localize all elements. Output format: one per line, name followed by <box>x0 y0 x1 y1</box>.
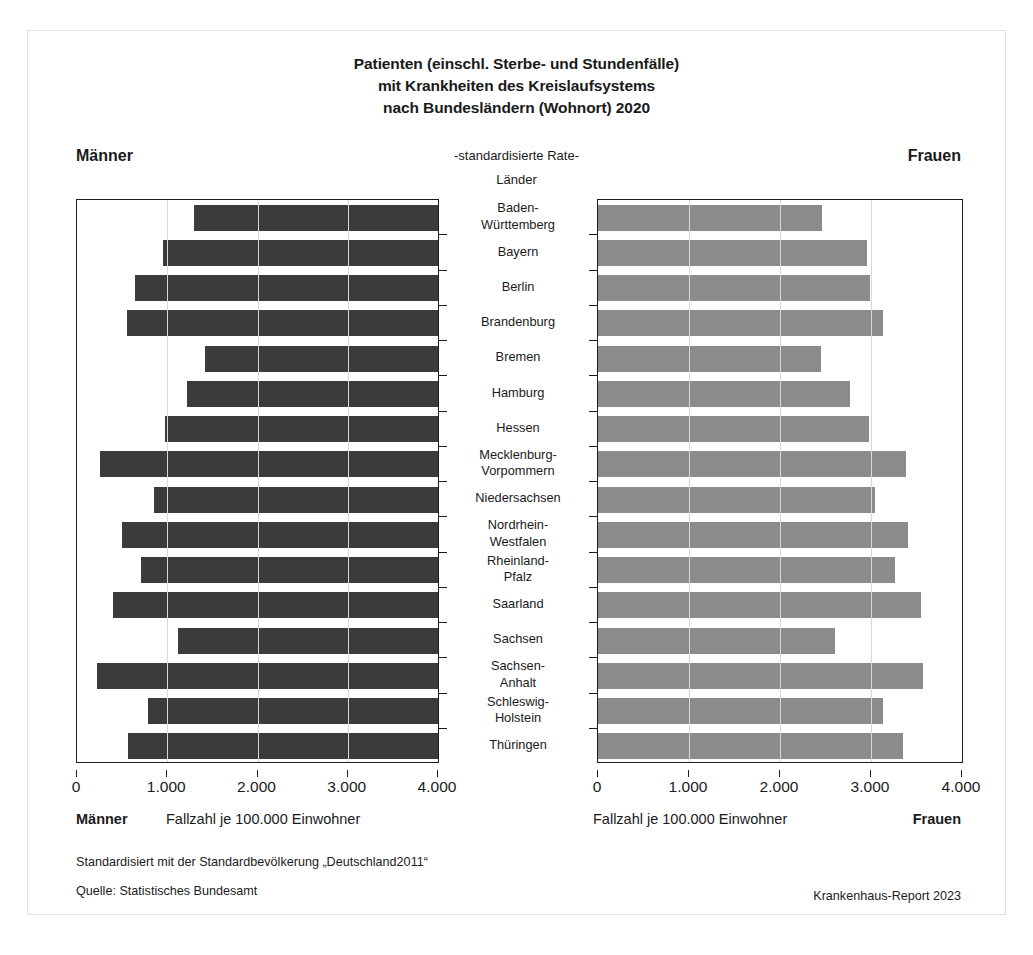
x-axis-tick <box>347 770 348 777</box>
bar-mecklenburg-vorpommern <box>598 451 906 477</box>
bar-hamburg <box>187 381 438 407</box>
gridline <box>689 200 690 762</box>
bar-rheinland-pfalz <box>598 557 895 583</box>
chart-title-line-1: Patienten (einschl. Sterbe- und Stundenf… <box>28 53 1005 75</box>
x-axis-tick <box>437 770 438 777</box>
footnote-standardisation: Standardisiert mit der Standardbevölkeru… <box>76 855 428 869</box>
panel-header-maenner: Männer <box>76 147 133 165</box>
x-axis-maenner: 4.0003.0002.0001.0000 <box>76 770 439 792</box>
bar-bremen <box>205 346 438 372</box>
bar-hessen <box>165 416 438 442</box>
bar-th-ringen <box>128 733 438 759</box>
bar-berlin <box>598 275 870 301</box>
x-axis-tick <box>688 770 689 777</box>
bar-schleswig-holstein <box>598 698 883 724</box>
bar-schleswig-holstein <box>148 698 438 724</box>
x-axis-tick-label: 4.000 <box>418 778 457 796</box>
x-axis-tick <box>961 770 962 777</box>
x-axis-tick <box>257 770 258 777</box>
category-label-rheinland-pfalz: Rheinland-Pfalz <box>442 553 594 586</box>
figure-panel: Patienten (einschl. Sterbe- und Stundenf… <box>27 30 1006 915</box>
gridline <box>167 200 168 762</box>
report-credit: Krankenhaus-Report 2023 <box>813 889 961 903</box>
category-label-th-ringen: Thüringen <box>442 737 594 754</box>
category-label-sachsen: Sachsen <box>442 631 594 648</box>
bar-baden-w-rttemberg <box>194 205 438 231</box>
category-label-baden-w-rttemberg: Baden-Württemberg <box>442 200 594 233</box>
bar-bayern <box>598 240 867 266</box>
category-label-bremen: Bremen <box>442 349 594 366</box>
bar-sachsen <box>178 628 438 654</box>
gridline <box>348 200 349 762</box>
bar-nordrhein-westfalen <box>122 522 438 548</box>
bar-nordrhein-westfalen <box>598 522 908 548</box>
chart-title-line-2: mit Krankheiten des Kreislaufsystems <box>28 75 1005 97</box>
bar-baden-w-rttemberg <box>598 205 822 231</box>
bar-hessen <box>598 416 869 442</box>
gridline <box>258 200 259 762</box>
axis-caption-frauen-label: Frauen <box>913 811 961 827</box>
category-label-schleswig-holstein: Schleswig-Holstein <box>442 694 594 727</box>
x-axis-tick-label: 1.000 <box>147 778 186 796</box>
chart-title-line-3: nach Bundesländern (Wohnort) 2020 <box>28 97 1005 119</box>
category-label-sachsen-anhalt: Sachsen-Anhalt <box>442 658 594 691</box>
chart-subtitle: -standardisierte Rate- <box>28 148 1005 163</box>
bar-rheinland-pfalz <box>141 557 438 583</box>
gridline <box>780 200 781 762</box>
bar-bayern <box>163 240 438 266</box>
category-label-nordrhein-westfalen: Nordrhein-Westfalen <box>442 517 594 550</box>
bar-berlin <box>135 275 438 301</box>
category-label-mecklenburg-vorpommern: Mecklenburg-Vorpommern <box>442 447 594 480</box>
category-label-niedersachsen: Niedersachsen <box>442 490 594 507</box>
bar-brandenburg <box>127 310 438 336</box>
bar-sachsen <box>598 628 835 654</box>
category-label-bayern: Bayern <box>442 244 594 261</box>
x-axis-tick-label: 3.000 <box>851 778 890 796</box>
x-axis-tick <box>870 770 871 777</box>
bar-sachsen-anhalt <box>97 663 438 689</box>
x-axis-tick <box>597 770 598 777</box>
chart-title: Patienten (einschl. Sterbe- und Stundenf… <box>28 53 1005 119</box>
category-label-saarland: Saarland <box>442 596 594 613</box>
category-labels: Baden-WürttembergBayernBerlinBrandenburg… <box>442 199 594 763</box>
x-axis-tick-label: 2.000 <box>237 778 276 796</box>
plot-area-maenner <box>76 199 439 763</box>
bar-sachsen-anhalt <box>598 663 923 689</box>
category-label-hamburg: Hamburg <box>442 385 594 402</box>
axis-caption-maenner-text: Fallzahl je 100.000 Einwohner <box>166 811 360 827</box>
footnote-source: Quelle: Statistisches Bundesamt <box>76 884 257 898</box>
bar-niedersachsen <box>154 487 438 513</box>
bar-mecklenburg-vorpommern <box>100 451 438 477</box>
bar-hamburg <box>598 381 850 407</box>
axis-caption-maenner-label: Männer <box>76 811 128 827</box>
plot-area-frauen <box>597 199 963 763</box>
bar-bremen <box>598 346 821 372</box>
x-axis-tick-label: 0 <box>72 778 81 796</box>
x-axis-tick-label: 0 <box>593 778 602 796</box>
bar-brandenburg <box>598 310 883 336</box>
gridline <box>871 200 872 762</box>
bar-saarland <box>113 592 438 618</box>
category-label-brandenburg: Brandenburg <box>442 314 594 331</box>
x-axis-tick-label: 3.000 <box>327 778 366 796</box>
x-axis-frauen: 01.0002.0003.0004.000 <box>597 770 963 792</box>
x-axis-tick <box>166 770 167 777</box>
bar-th-ringen <box>598 733 903 759</box>
x-axis-tick <box>76 770 77 777</box>
bar-saarland <box>598 592 921 618</box>
category-label-hessen: Hessen <box>442 420 594 437</box>
panel-header-frauen: Frauen <box>908 147 961 165</box>
x-axis-tick-label: 2.000 <box>760 778 799 796</box>
bar-niedersachsen <box>598 487 875 513</box>
axis-caption-frauen-text: Fallzahl je 100.000 Einwohner <box>593 811 787 827</box>
category-axis-header: Länder <box>28 172 1005 187</box>
x-axis-tick-label: 4.000 <box>942 778 981 796</box>
category-label-berlin: Berlin <box>442 279 594 296</box>
x-axis-tick-label: 1.000 <box>669 778 708 796</box>
x-axis-tick <box>779 770 780 777</box>
